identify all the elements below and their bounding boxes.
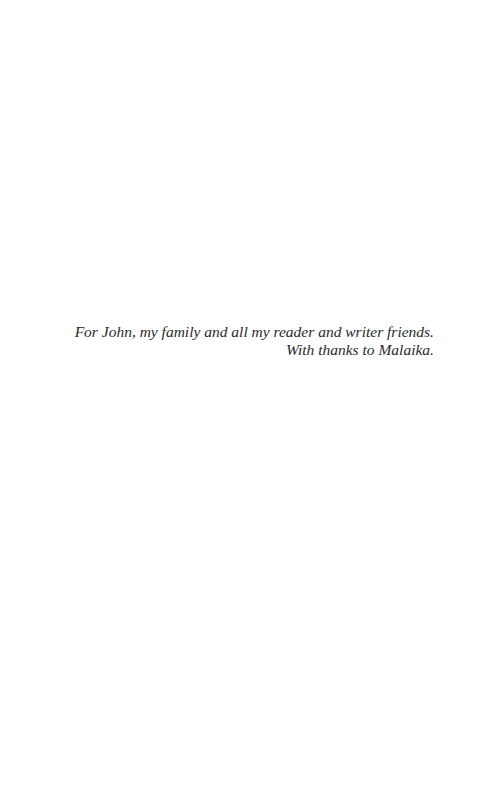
- dedication-text: For John, my family and all my reader an…: [75, 323, 434, 359]
- dedication-line-1: For John, my family and all my reader an…: [75, 323, 434, 341]
- dedication-line-2: With thanks to Malaika.: [75, 341, 434, 359]
